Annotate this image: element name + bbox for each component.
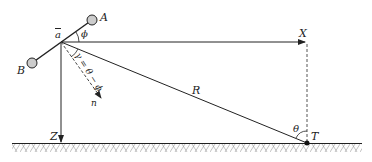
node-b <box>27 58 37 68</box>
label-r: R <box>191 84 200 97</box>
target-point <box>305 141 310 146</box>
label-theta: θ <box>293 123 299 134</box>
label-gamma: γ = θ − ϕ <box>73 51 105 93</box>
phi-arc <box>76 32 79 42</box>
r-line <box>61 42 307 143</box>
label-n: n <box>91 98 97 108</box>
ground-hatch <box>12 144 362 152</box>
label-origin: a <box>55 29 61 40</box>
node-a <box>87 15 97 25</box>
geometry-diagram: A B a ϕ γ = θ − ϕ n X Z R θ T <box>0 0 372 162</box>
label-a: A <box>99 11 108 24</box>
label-x: X <box>298 27 308 40</box>
label-t: T <box>311 130 320 143</box>
label-phi: ϕ <box>81 28 88 39</box>
label-b: B <box>16 64 25 77</box>
label-z: Z <box>49 130 58 143</box>
